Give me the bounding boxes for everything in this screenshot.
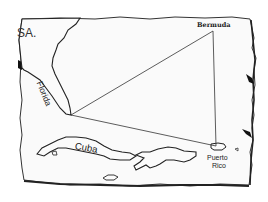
puerto-rico-label-line1: Puerto <box>207 154 228 161</box>
puerto-rico-island <box>211 143 226 150</box>
usa-label: SA. <box>17 27 36 39</box>
bermuda-triangle-map: SA. Bermuda Florida Cuba Puerto Rico <box>0 0 268 202</box>
puerto-rico-label-line2: Rico <box>212 162 226 169</box>
bermuda-label: Bermuda <box>197 22 230 29</box>
map-drawing <box>0 0 268 202</box>
